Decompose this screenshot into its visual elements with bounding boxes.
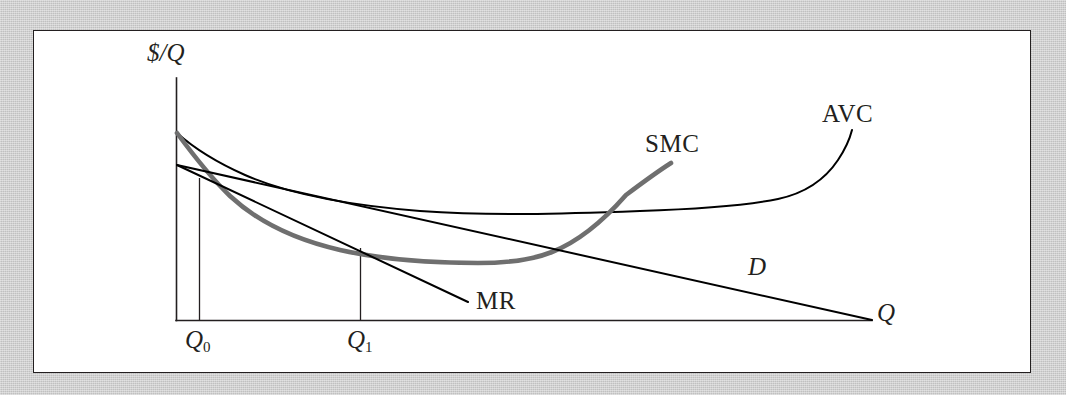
x-tick-label-q1: Q1 bbox=[347, 327, 373, 355]
q0-subscript: 0 bbox=[203, 339, 211, 355]
curve-label-smc: SMC bbox=[645, 131, 700, 156]
curve-demand bbox=[177, 165, 872, 320]
y-axis-label: $/Q bbox=[147, 40, 185, 65]
q1-main: Q bbox=[347, 326, 365, 353]
curve-avc bbox=[177, 130, 852, 214]
curve-label-avc: AVC bbox=[822, 101, 873, 126]
curve-label-demand: D bbox=[748, 254, 766, 279]
x-tick-label-q0: Q0 bbox=[185, 327, 211, 355]
q1-subscript: 1 bbox=[365, 339, 373, 355]
q0-main: Q bbox=[185, 326, 203, 353]
curve-label-marginal-revenue: MR bbox=[476, 288, 516, 313]
curve-marginal-revenue bbox=[177, 165, 468, 302]
curve-smc bbox=[177, 133, 671, 263]
figure-root: $/Q Q Q0 Q1 AVC SMC D MR bbox=[0, 0, 1066, 395]
x-axis-label: Q bbox=[877, 300, 895, 325]
